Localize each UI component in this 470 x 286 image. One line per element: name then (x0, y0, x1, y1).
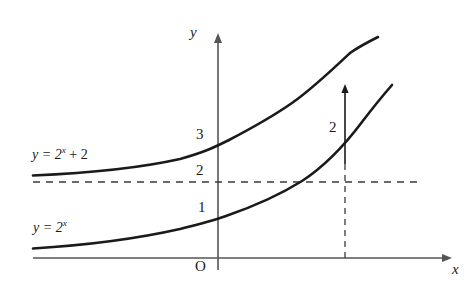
y-tick-label-3: 3 (196, 127, 204, 142)
upper-curve-label: y = 2x + 2 (32, 146, 88, 162)
y-axis-label: y (190, 25, 197, 40)
lower-curve-label-base: y = 2 (33, 220, 63, 235)
x-axis-label: x (452, 262, 459, 277)
upper-curve-label-base: y = 2 (32, 147, 62, 162)
lower-curve-path (33, 85, 392, 249)
lower-curve-label: y = 2x (33, 219, 67, 235)
lower-curve-label-exponent: x (63, 218, 67, 228)
graph-canvas (0, 0, 470, 286)
vertical-gap-label: 2 (329, 120, 337, 135)
math-graph-figure: 3 2 1 y x O y = 2x + 2 y = 2x 2 (0, 0, 470, 286)
upper-curve-label-tail: + 2 (66, 147, 88, 162)
origin-label: O (195, 259, 206, 274)
y-tick-label-2: 2 (196, 163, 204, 178)
y-tick-label-1: 1 (198, 200, 206, 215)
